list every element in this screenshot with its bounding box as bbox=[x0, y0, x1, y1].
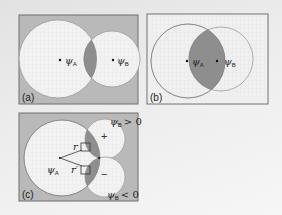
plus-sign: + bbox=[101, 130, 107, 142]
psi-b-positive-condition: ψB> 0 bbox=[110, 116, 142, 128]
panel-a: ψA ψB (a) bbox=[19, 15, 140, 104]
nucleus-b-dot bbox=[98, 157, 100, 159]
panel-c-label: (c) bbox=[22, 189, 34, 200]
nucleus-a-dot bbox=[186, 60, 188, 62]
psi-b-negative-condition: ψB< 0 bbox=[107, 189, 139, 201]
panel-c: r r′ ψA + − ψB> 0 ψB< 0 (c) bbox=[19, 113, 142, 201]
nucleus-a-dot bbox=[59, 59, 61, 61]
r-prime-label: r′ bbox=[71, 164, 79, 175]
panel-a-label: (a) bbox=[22, 92, 34, 103]
nucleus-b-dot bbox=[216, 60, 218, 62]
panel-b: ψA ψB (b) bbox=[147, 14, 268, 104]
minus-sign: − bbox=[101, 168, 107, 180]
nucleus-b-dot bbox=[112, 59, 114, 61]
panel-b-label: (b) bbox=[150, 92, 162, 103]
orbital-overlap-figure: ψA ψB (a) ψA ψB (b) bbox=[0, 0, 282, 215]
